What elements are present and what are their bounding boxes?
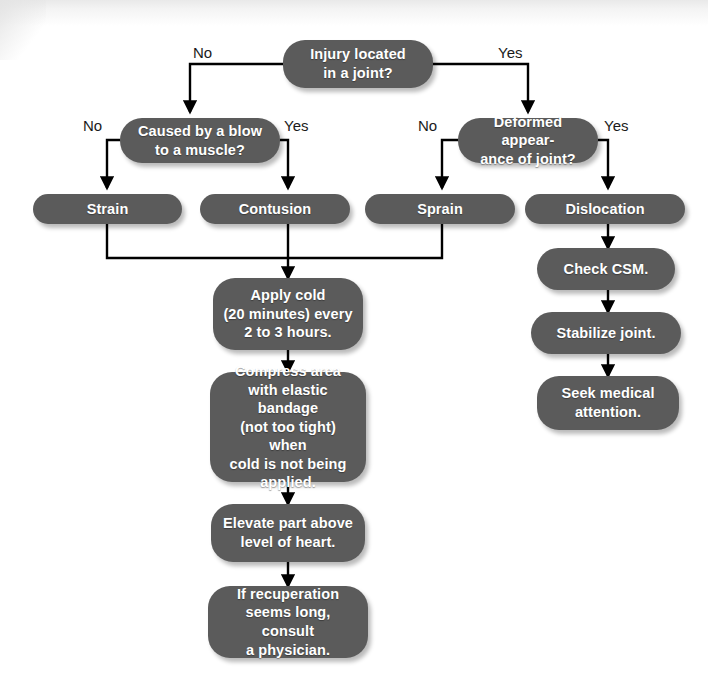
node-label: Injury located in a joint? xyxy=(310,45,406,82)
node-label: If recuperation seems long, consult a ph… xyxy=(218,585,358,659)
node-label: Elevate part above level of heart. xyxy=(223,514,353,551)
edge-label-q1-no: No xyxy=(193,44,212,61)
edge-q2-yes xyxy=(280,140,288,188)
node-label: Stabilize joint. xyxy=(556,324,655,343)
edge-label-q2-no: No xyxy=(83,117,102,134)
edge-q2-no xyxy=(107,140,120,188)
node-label: Strain xyxy=(87,200,129,219)
node-apply-cold[interactable]: Apply cold (20 minutes) every 2 to 3 hou… xyxy=(213,278,363,350)
node-label: Sprain xyxy=(417,200,463,219)
edge-q1-yes xyxy=(433,64,528,112)
node-stabilize-joint[interactable]: Stabilize joint. xyxy=(531,312,681,354)
edge-q1-no xyxy=(190,64,283,112)
node-strain[interactable]: Strain xyxy=(33,194,182,224)
edge-sprain-to-cold xyxy=(288,224,442,258)
node-sprain[interactable]: Sprain xyxy=(365,194,515,224)
flowchart-canvas: No Yes No Yes No Yes Injury located in a… xyxy=(0,0,708,691)
node-label: Deformed appear- ance of joint? xyxy=(468,113,588,169)
node-seek-medical-attention[interactable]: Seek medical attention. xyxy=(537,376,679,430)
node-label: Dislocation xyxy=(565,200,644,219)
node-contusion[interactable]: Contusion xyxy=(200,194,350,224)
node-label: Seek medical attention. xyxy=(561,384,654,421)
node-dislocation[interactable]: Dislocation xyxy=(525,194,685,224)
edge-q3-no xyxy=(442,140,458,188)
edge-label-q3-no: No xyxy=(418,117,437,134)
edge-label-q3-yes: Yes xyxy=(604,117,628,134)
node-caused-by-blow-to-muscle[interactable]: Caused by a blow to a muscle? xyxy=(120,118,280,163)
node-elevate-part[interactable]: Elevate part above level of heart. xyxy=(211,504,365,562)
node-check-csm[interactable]: Check CSM. xyxy=(537,248,675,290)
node-injury-located-in-joint[interactable]: Injury located in a joint? xyxy=(283,40,433,88)
node-label: Compress area with elastic bandage (not … xyxy=(220,362,356,492)
node-label: Apply cold (20 minutes) every 2 to 3 hou… xyxy=(223,286,352,342)
node-label: Check CSM. xyxy=(564,260,649,279)
node-deformed-appearance-of-joint[interactable]: Deformed appear- ance of joint? xyxy=(458,118,598,163)
edge-strain-to-cold xyxy=(107,224,288,258)
node-label: Contusion xyxy=(239,200,312,219)
edge-label-q2-yes: Yes xyxy=(284,117,308,134)
node-compress-area[interactable]: Compress area with elastic bandage (not … xyxy=(210,372,366,482)
node-consult-physician[interactable]: If recuperation seems long, consult a ph… xyxy=(208,586,368,658)
edge-label-q1-yes: Yes xyxy=(498,44,522,61)
page-corner-shading xyxy=(0,0,46,60)
node-label: Caused by a blow to a muscle? xyxy=(138,122,262,159)
page-top-shading xyxy=(0,0,708,26)
edge-q3-yes xyxy=(598,140,608,188)
